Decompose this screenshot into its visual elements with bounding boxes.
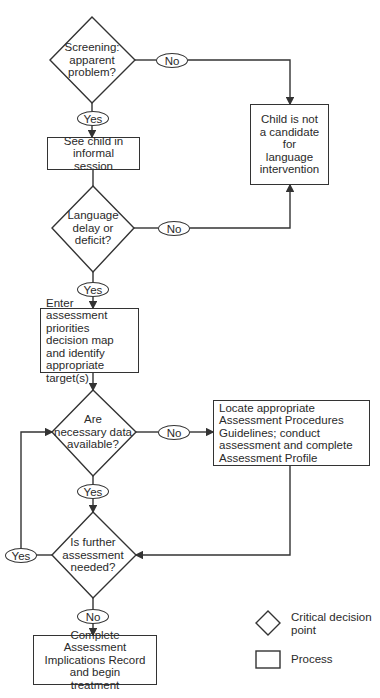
decision-text-further: Is further assessment needed? [55, 535, 131, 575]
edge-label-yes: Yes [77, 484, 109, 499]
edge-label-no: No [156, 53, 188, 68]
legend-decision-label: Critical decision point [291, 611, 372, 636]
decision-text-language: Language delay or deficit? [58, 208, 128, 248]
edge-label-yes: Yes [77, 282, 109, 297]
legend-square-icon [256, 651, 280, 668]
legend-process-label: Process [291, 653, 333, 666]
process-locate-guidelines: Locate appropriate Assessment Procedures… [213, 400, 370, 466]
process-enter-assessment: Enter assessment priorities decision map… [40, 308, 139, 373]
edge-label-yes: Yes [5, 548, 37, 563]
edge-label-yes: Yes [77, 111, 109, 126]
decision-text-data: Are necessary data available? [50, 412, 136, 452]
process-not-candidate: Child is not a candidate for language in… [250, 104, 329, 185]
edge-label-no: No [158, 425, 190, 440]
edge-label-no: No [77, 609, 109, 624]
process-see-child: See child in informal session [47, 137, 140, 170]
legend-diamond-icon [256, 611, 280, 635]
decision-text-screening: Screening: apparent problem? [57, 40, 127, 80]
process-complete-record: Complete Assessment Implications Record … [33, 635, 157, 685]
edge-label-no: No [158, 221, 190, 236]
